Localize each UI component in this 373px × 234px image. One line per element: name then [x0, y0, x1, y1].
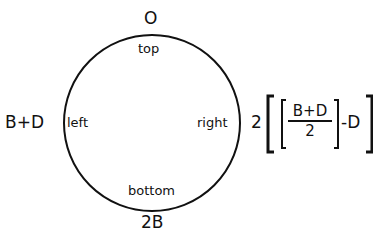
left-label: left: [67, 116, 88, 129]
top-label: top: [138, 42, 159, 55]
right-label: right: [197, 116, 228, 129]
fraction-numerator: B+D: [288, 104, 332, 122]
fraction-denominator: 2: [288, 122, 332, 139]
bottom-label: bottom: [128, 184, 175, 197]
outer-right-bracket: [366, 96, 372, 152]
top-value: O: [144, 10, 157, 27]
right-coefficient: 2: [251, 114, 262, 131]
fraction: B+D 2: [288, 104, 332, 139]
right-suffix: -D: [341, 114, 360, 131]
outer-left-bracket: [268, 96, 274, 152]
inner-right-bracket: [334, 100, 338, 148]
bottom-value: 2B: [141, 214, 163, 231]
inner-left-bracket: [282, 100, 286, 148]
left-value: B+D: [5, 114, 44, 131]
